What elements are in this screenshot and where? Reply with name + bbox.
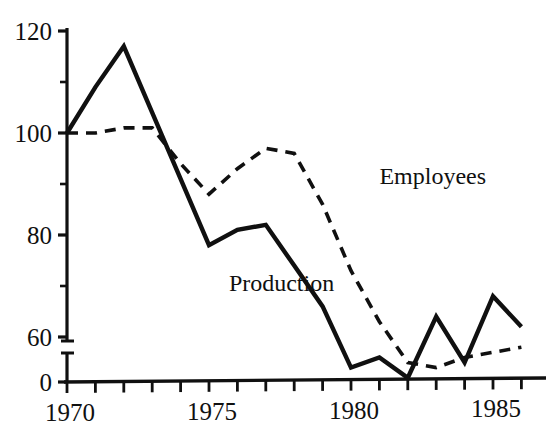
axes xyxy=(61,28,546,383)
x-axis-tick-labels: 1970197519801985 xyxy=(45,395,521,426)
y-axis-tick-labels: 06080100120 xyxy=(15,18,53,396)
y-tick-label: 100 xyxy=(15,120,53,147)
series-label-employees: Employees xyxy=(379,163,486,189)
series-label-production: Production xyxy=(229,270,334,296)
line-chart: 06080100120 1970197519801985 EmployeesPr… xyxy=(0,0,550,442)
series-line-production xyxy=(67,46,521,378)
x-axis-line xyxy=(64,378,546,382)
x-tick-label: 1985 xyxy=(471,395,521,422)
y-tick-label: 0 xyxy=(40,369,53,396)
y-tick-label: 60 xyxy=(27,324,52,351)
x-tick-label: 1975 xyxy=(187,398,237,425)
x-tick-label: 1980 xyxy=(329,397,379,424)
y-tick-label: 80 xyxy=(27,222,52,249)
x-tick-label: 1970 xyxy=(45,399,95,426)
axis-break-marks xyxy=(61,341,74,353)
chart-canvas: 06080100120 1970197519801985 EmployeesPr… xyxy=(0,0,550,442)
y-tick-label: 120 xyxy=(15,18,53,45)
